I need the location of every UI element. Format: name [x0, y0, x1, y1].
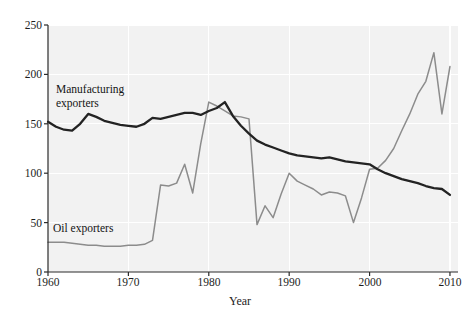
chart-figure: 250 200 150 100 50 0 1960 1970 1980 1990… — [0, 0, 474, 316]
plot-background — [48, 25, 458, 272]
manufacturing-label-line2: exporters — [56, 97, 99, 110]
x-axis-title: Year — [229, 294, 251, 308]
y-tick-label-150: 150 — [25, 118, 43, 130]
oil-label: Oil exporters — [53, 222, 114, 235]
x-tick-label-1970: 1970 — [117, 276, 140, 288]
line-chart: 250 200 150 100 50 0 1960 1970 1980 1990… — [0, 0, 474, 316]
x-tick-label-1960: 1960 — [37, 276, 60, 288]
x-tick-label-1980: 1980 — [198, 276, 221, 288]
y-tick-label-100: 100 — [25, 167, 43, 179]
y-tick-label-250: 250 — [25, 19, 43, 31]
x-tick-label-1990: 1990 — [278, 276, 301, 288]
y-tick-label-50: 50 — [31, 217, 43, 229]
x-tick-label-2010: 2010 — [439, 276, 462, 288]
manufacturing-label-line1: Manufacturing — [56, 83, 125, 96]
x-tick-label-2000: 2000 — [359, 276, 382, 288]
y-tick-label-200: 200 — [25, 68, 43, 80]
